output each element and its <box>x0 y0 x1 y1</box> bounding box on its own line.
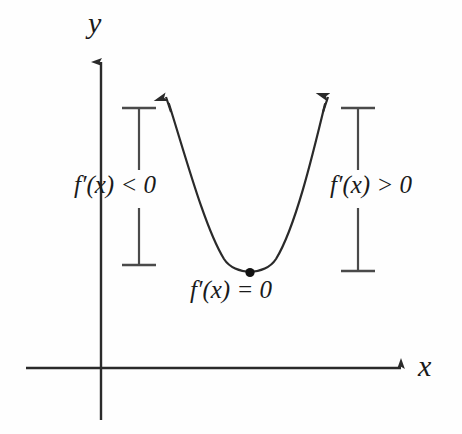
derivative-negative-label: f′(x) < 0 <box>74 172 156 197</box>
parabola-path <box>169 104 325 272</box>
x-axis-label: x <box>418 351 431 381</box>
derivative-zero-label: f′(x) = 0 <box>190 277 272 302</box>
derivative-positive-label: f′(x) > 0 <box>330 172 412 197</box>
y-axis-label: y <box>88 8 101 38</box>
derivative-sign-diagram: y x f′(x) < 0 f′(x) > 0 f′(x) = 0 <box>0 0 462 434</box>
figure-canvas <box>0 0 462 434</box>
parabola-curve <box>166 97 328 277</box>
